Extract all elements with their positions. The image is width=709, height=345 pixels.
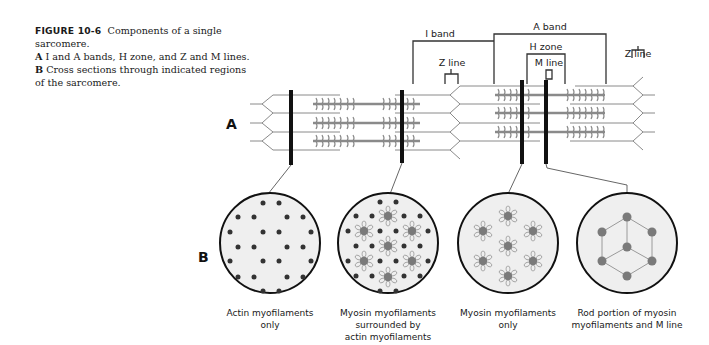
cross-section-actin-only [220, 193, 320, 294]
h-zone-label: H zone [530, 41, 563, 52]
cross-section-rod-m-line [577, 193, 677, 293]
cross-section-label-2: Myosin myofilaments surrounded by actin … [328, 307, 448, 343]
cross-section-label-1: Actin myofilaments only [210, 307, 330, 331]
i-band-label: I band [425, 28, 455, 39]
cross-section-myosin-actin [338, 193, 438, 294]
myosin-filaments [313, 89, 605, 147]
m-line-label: M line [535, 57, 564, 68]
label-line: myofilaments and M line [562, 319, 692, 331]
leader-lines [268, 163, 627, 194]
label-line: only [210, 319, 330, 331]
label-line: actin myofilaments [328, 331, 448, 343]
label-line: Rod portion of myosin [562, 307, 692, 319]
panel-label-a: A [226, 116, 237, 132]
z-line-left-label: Z line [439, 57, 466, 68]
label-line: surrounded by [328, 319, 448, 331]
actin-filaments [250, 77, 655, 159]
sarcomere-diagram: A B I band A band H zone M line Z line Z… [0, 0, 709, 345]
cross-section-label-3: Myosin myofilaments only [448, 307, 568, 331]
label-line: Myosin myofilaments [328, 307, 448, 319]
cross-section-label-4: Rod portion of myosin myofilaments and M… [562, 307, 692, 331]
panel-label-b: B [198, 249, 209, 265]
label-line: only [448, 319, 568, 331]
z-line-right-label: Z line [625, 48, 652, 59]
label-line: Myosin myofilaments [448, 307, 568, 319]
cross-section-myosin-only [458, 193, 558, 293]
label-line: Actin myofilaments [210, 307, 330, 319]
a-band-label: A band [533, 21, 566, 32]
